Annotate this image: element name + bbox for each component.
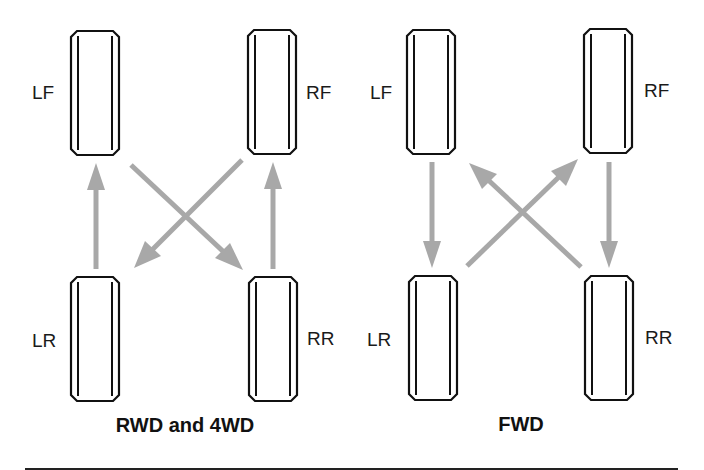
panel-fwd: LF RF LR RR FWD [367, 29, 672, 435]
tire-rotation-diagram: LF RF LR RR RWD and 4WD [0, 0, 704, 470]
tire-label-lf: LF [370, 82, 392, 103]
tire-lr [409, 276, 457, 400]
arrow-up-icon [87, 163, 105, 269]
arrow-down-icon [600, 162, 618, 268]
tire-label-rf: RF [306, 82, 331, 103]
panel-rwd-4wd: LF RF LR RR RWD and 4WD [32, 30, 334, 436]
tire-label-rr: RR [307, 328, 334, 349]
tire-rr [585, 276, 633, 400]
caption-rwd-4wd: RWD and 4WD [116, 414, 255, 436]
tire-label-rr: RR [645, 327, 672, 348]
tire-rf [248, 30, 296, 154]
arrow-up-icon [264, 162, 282, 269]
arrow-down-icon [423, 162, 441, 268]
tire-label-lf: LF [32, 82, 54, 103]
tire-lf [71, 31, 119, 155]
tire-label-lr: LR [32, 330, 56, 351]
caption-fwd: FWD [498, 413, 544, 435]
tire-label-lr: LR [367, 329, 391, 350]
tire-rf [584, 29, 632, 153]
tire-rr [249, 277, 297, 401]
tire-lr [71, 277, 119, 401]
tire-label-rf: RF [644, 80, 669, 101]
tire-lf [407, 30, 455, 154]
